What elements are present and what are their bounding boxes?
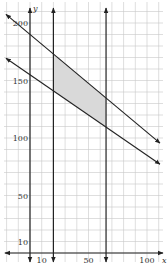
y-axis-label: y [32, 4, 38, 13]
sloped-line-2 [6, 58, 160, 164]
y-tick-label: 50 [18, 192, 28, 201]
coordinate-plane: 10501001050100150200xy [0, 0, 167, 265]
x-axis-label: x [162, 256, 167, 265]
sloped-line-1 [6, 14, 160, 143]
x-tick-label: 10 [37, 256, 47, 265]
y-tick-label: 100 [13, 134, 28, 143]
x-tick-label: 50 [83, 256, 93, 265]
y-tick-label: 150 [13, 77, 28, 86]
x-tick-label: 100 [139, 256, 154, 265]
y-tick-label: 10 [18, 238, 28, 247]
y-tick-label: 200 [13, 19, 28, 28]
graph-figure: 10501001050100150200xy [0, 0, 167, 265]
shaded-feasible-region [53, 54, 106, 127]
